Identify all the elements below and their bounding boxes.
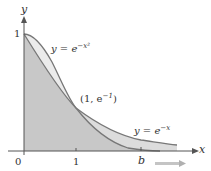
intersection-label-exponent: −1 <box>103 92 113 100</box>
intersection-label-prefix: (1, e <box>80 93 103 104</box>
gaussian-label-exponent: −x² <box>77 42 90 50</box>
y-axis-arrow-icon <box>21 16 27 23</box>
intersection-label: (1, e−1) <box>80 93 117 104</box>
b-direction-arrow-icon <box>179 160 186 167</box>
x-axis-label: x <box>199 144 205 155</box>
exponential-label-base: y = e <box>134 125 160 136</box>
y-tick-label-1: 1 <box>14 29 20 39</box>
gaussian-label-base: y = e <box>51 43 77 54</box>
b-direction-arrow-shaft <box>155 162 180 165</box>
x-tick-label-1: 1 <box>73 157 79 167</box>
y-axis-label: y <box>21 4 27 15</box>
exponential-curve-label: y = e−x <box>134 125 170 136</box>
graph-canvas <box>0 0 211 171</box>
gaussian-curve-label: y = e−x² <box>51 43 90 54</box>
intersection-label-suffix: ) <box>113 93 117 104</box>
origin-label: 0 <box>15 157 21 167</box>
exponential-label-exponent: −x <box>160 124 170 132</box>
x-tick-label-b: b <box>138 155 145 166</box>
x-axis-arrow-icon <box>192 148 199 154</box>
